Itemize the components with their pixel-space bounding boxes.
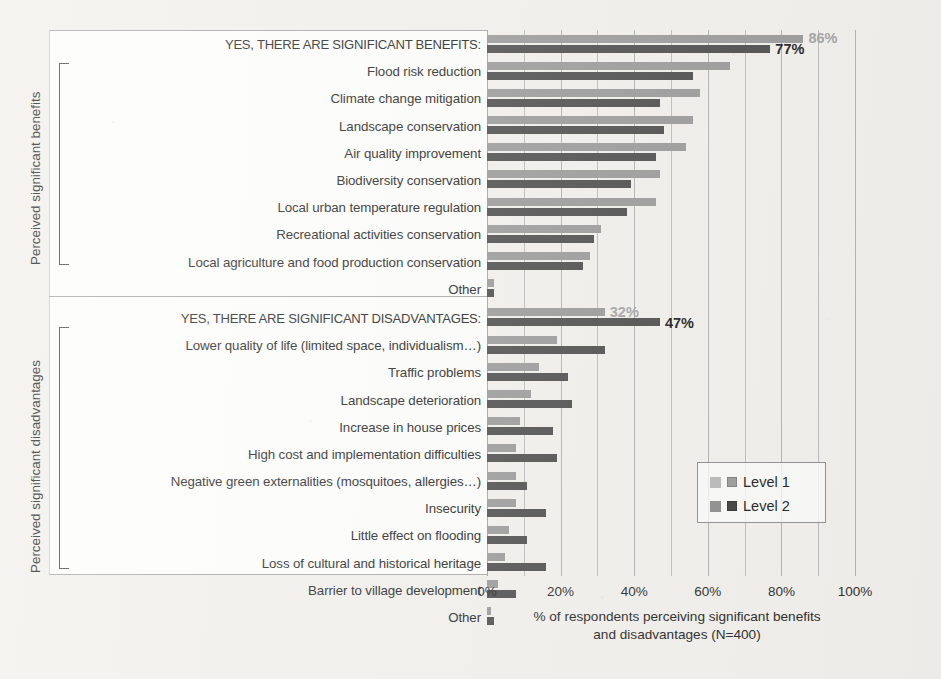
category-label-row: High cost and implementation difficultie… bbox=[49, 441, 487, 468]
bar-group bbox=[487, 359, 927, 386]
category-label: Climate change mitigation bbox=[331, 91, 482, 106]
data-label-level-2: 47% bbox=[665, 315, 694, 331]
legend: Level 1 Level 2 bbox=[697, 462, 826, 523]
x-tick-40: 40% bbox=[621, 584, 648, 599]
category-label-row: YES, THERE ARE SIGNIFICANT BENEFITS: bbox=[49, 31, 487, 58]
bar-group bbox=[487, 85, 927, 112]
category-labels: YES, THERE ARE SIGNIFICANT BENEFITS:Floo… bbox=[49, 31, 487, 631]
category-label-row: Landscape conservation bbox=[49, 113, 487, 140]
bar-level-2 bbox=[487, 509, 546, 517]
category-label: Local agriculture and food production co… bbox=[188, 255, 481, 270]
bar-level-1 bbox=[487, 444, 516, 452]
bar-chart: Perceived significant benefits Perceived… bbox=[0, 0, 941, 679]
category-label-row: Loss of cultural and historical heritage bbox=[49, 550, 487, 577]
category-label-row: Recreational activities conservation bbox=[49, 221, 487, 248]
bar-group bbox=[487, 221, 927, 248]
category-label: YES, THERE ARE SIGNIFICANT DISADVANTAGES… bbox=[181, 311, 481, 326]
bar-group: 32%47% bbox=[487, 305, 927, 332]
data-label-level-1: 32% bbox=[610, 304, 639, 320]
x-tick-80: 80% bbox=[768, 584, 795, 599]
bar-level-1 bbox=[487, 499, 516, 507]
group-axis-title-disadvantages: Perceived significant disadvantages bbox=[28, 360, 43, 573]
bar-level-1 bbox=[487, 170, 660, 178]
bar-level-2 bbox=[487, 373, 568, 381]
category-label: Flood risk reduction bbox=[367, 64, 481, 79]
bar-group bbox=[487, 414, 927, 441]
bar-level-1 bbox=[487, 553, 505, 561]
bar-level-1 bbox=[487, 390, 531, 398]
bar-group bbox=[487, 332, 927, 359]
bar-level-2 bbox=[487, 180, 631, 188]
category-label: Loss of cultural and historical heritage bbox=[262, 556, 481, 571]
category-label-row: Flood risk reduction bbox=[49, 58, 487, 85]
category-label: Traffic problems bbox=[388, 365, 481, 380]
x-axis-ticks: 0%20%40%60%80%100% bbox=[487, 584, 867, 604]
x-tick-20: 20% bbox=[547, 584, 574, 599]
legend-swatch-level-1 bbox=[727, 477, 737, 487]
bar-level-1 bbox=[487, 35, 803, 43]
category-label-row: Insecurity bbox=[49, 495, 487, 522]
bar-level-1 bbox=[487, 526, 509, 534]
bar-level-1 bbox=[487, 472, 516, 480]
category-label: Landscape deterioration bbox=[341, 393, 481, 408]
bar-level-2 bbox=[487, 153, 656, 161]
category-label-row: Other bbox=[49, 604, 487, 631]
category-label: Lower quality of life (limited space, in… bbox=[186, 338, 481, 353]
category-label-row: Barrier to village development bbox=[49, 577, 487, 604]
category-label-row: YES, THERE ARE SIGNIFICANT DISADVANTAGES… bbox=[49, 305, 487, 332]
category-label-row: Other bbox=[49, 276, 487, 303]
category-label: Other bbox=[448, 610, 481, 625]
bar-level-2 bbox=[487, 454, 557, 462]
bar-group bbox=[487, 140, 927, 167]
category-label: Insecurity bbox=[425, 501, 481, 516]
bar-group bbox=[487, 194, 927, 221]
category-label-row: Biodiversity conservation bbox=[49, 167, 487, 194]
x-tick-0: 0% bbox=[477, 584, 497, 599]
bar-level-1 bbox=[487, 336, 557, 344]
x-tick-60: 60% bbox=[694, 584, 721, 599]
category-label-row: Increase in house prices bbox=[49, 414, 487, 441]
category-label: Landscape conservation bbox=[339, 119, 481, 134]
bar-level-2 bbox=[487, 126, 664, 134]
bracket-disadvantages bbox=[59, 327, 69, 569]
legend-swatch-ghost-level-1 bbox=[710, 477, 721, 488]
bar-group bbox=[487, 276, 927, 303]
bar-level-2 bbox=[487, 99, 660, 107]
bar-level-1 bbox=[487, 363, 539, 371]
category-label: Air quality improvement bbox=[344, 146, 481, 161]
legend-swatch-ghost-level-2 bbox=[710, 501, 721, 512]
category-label: High cost and implementation difficultie… bbox=[248, 447, 481, 462]
category-label-row: Landscape deterioration bbox=[49, 386, 487, 413]
bar-level-2 bbox=[487, 208, 627, 216]
bar-group bbox=[487, 522, 927, 549]
category-label: Local urban temperature regulation bbox=[277, 200, 481, 215]
legend-label-level-1: Level 1 bbox=[743, 474, 790, 490]
legend-label-level-2: Level 2 bbox=[743, 498, 790, 514]
bar-level-2 bbox=[487, 482, 527, 490]
bar-series-area: 86%77%32%47% bbox=[487, 31, 927, 631]
bar-group: 86%77% bbox=[487, 31, 927, 58]
bar-group bbox=[487, 58, 927, 85]
category-label-row: Local urban temperature regulation bbox=[49, 194, 487, 221]
category-label: Little effect on flooding bbox=[351, 528, 481, 543]
bar-group bbox=[487, 167, 927, 194]
legend-item-level-1: Level 1 bbox=[710, 470, 825, 494]
category-label-row: Lower quality of life (limited space, in… bbox=[49, 332, 487, 359]
bar-level-1 bbox=[487, 252, 590, 260]
x-axis-title: % of respondents perceiving significant … bbox=[487, 608, 867, 644]
legend-swatch-level-2 bbox=[727, 501, 737, 511]
category-label: YES, THERE ARE SIGNIFICANT BENEFITS: bbox=[225, 37, 481, 52]
bar-group bbox=[487, 550, 927, 577]
data-label-level-1: 86% bbox=[808, 30, 837, 46]
category-label-row: Local agriculture and food production co… bbox=[49, 249, 487, 276]
bar-level-1 bbox=[487, 417, 520, 425]
bracket-benefits bbox=[59, 63, 69, 265]
bar-level-2 bbox=[487, 346, 605, 354]
legend-item-level-2: Level 2 bbox=[710, 494, 825, 518]
data-label-level-2: 77% bbox=[775, 41, 804, 57]
bar-level-1 bbox=[487, 308, 605, 316]
x-axis-title-line1: % of respondents perceiving significant … bbox=[487, 608, 867, 626]
category-label-row: Little effect on flooding bbox=[49, 522, 487, 549]
category-label: Recreational activities conservation bbox=[276, 227, 481, 242]
bar-group bbox=[487, 249, 927, 276]
